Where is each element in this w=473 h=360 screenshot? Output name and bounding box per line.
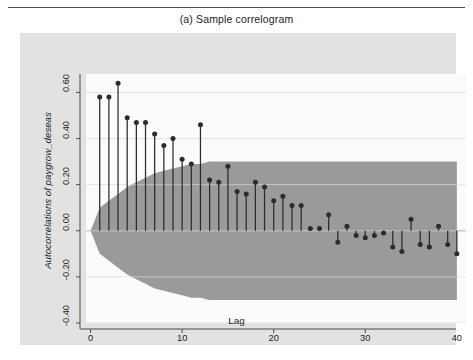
stem-marker (372, 233, 377, 238)
stem-marker (308, 226, 313, 231)
stem-marker (326, 212, 331, 217)
stem-marker (207, 178, 212, 183)
y-axis-tick-label: 0.20 (61, 167, 71, 201)
stem-marker (262, 184, 267, 189)
stem-marker (363, 235, 368, 240)
stem-marker (354, 233, 359, 238)
stem-marker (134, 120, 139, 125)
stem-marker (344, 224, 349, 229)
plot-region (86, 74, 466, 323)
x-axis-tick-label: 0 (76, 333, 106, 343)
stem-marker (235, 189, 240, 194)
x-axis-tick-label: 40 (442, 333, 472, 343)
stem-marker (216, 180, 221, 185)
stem-marker (436, 224, 441, 229)
stem-marker (161, 143, 166, 148)
stem-marker (427, 244, 432, 249)
stem-marker (418, 242, 423, 247)
stem-marker (125, 115, 130, 120)
y-axis-tick-label: -0.20 (61, 259, 71, 293)
stem-marker (399, 249, 404, 254)
stem-marker (143, 120, 148, 125)
x-axis-tick-label: 10 (167, 333, 197, 343)
stem-marker (280, 194, 285, 199)
stem-marker (299, 203, 304, 208)
stem-marker (381, 231, 386, 236)
stem-marker (170, 136, 175, 141)
y-axis-tick-label: 0.40 (61, 121, 71, 155)
stem-marker (445, 242, 450, 247)
stem-marker (244, 191, 249, 196)
graph-region: Autocorrelations of paygrow_deseas -0.40… (20, 33, 456, 345)
stem-marker (97, 95, 102, 100)
x-axis-tick-label: 30 (350, 333, 380, 343)
stem-marker (335, 240, 340, 245)
y-axis-tick-label: 0.60 (61, 74, 71, 108)
header-divider (8, 7, 465, 8)
stem-marker (454, 251, 459, 256)
correlogram-figure: (a) Sample correlogram Autocorrelations … (0, 0, 473, 360)
stem-marker (317, 226, 322, 231)
stem-marker (290, 203, 295, 208)
stem-marker (253, 180, 258, 185)
figure-title: (a) Sample correlogram (0, 13, 473, 25)
stem-marker (180, 157, 185, 162)
stem-marker (116, 81, 121, 86)
y-axis-tick-label: 0.00 (61, 213, 71, 247)
stem-marker (198, 122, 203, 127)
correlogram-plot (86, 74, 466, 323)
stem-marker (189, 161, 194, 166)
stem-marker (390, 244, 395, 249)
stem-marker (271, 198, 276, 203)
x-axis-label: Lag (0, 315, 473, 326)
stem-marker (409, 217, 414, 222)
y-axis-label: Autocorrelations of paygrow_deseas (42, 66, 53, 316)
stem-marker (225, 164, 230, 169)
stem-marker (106, 95, 111, 100)
stem-marker (152, 131, 157, 136)
x-axis-tick-label: 20 (259, 333, 289, 343)
